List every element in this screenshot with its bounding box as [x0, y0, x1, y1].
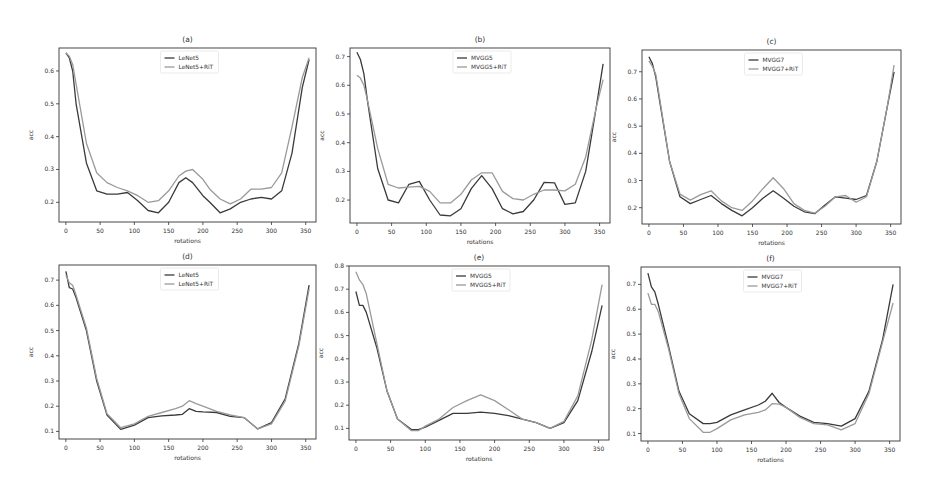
y-axis-label: acc: [27, 130, 34, 140]
legend-label: MVGG7+RiT: [763, 66, 799, 72]
x-tick-label: 50: [96, 227, 104, 234]
chart-svg: (e)0501001502002503003500.10.20.30.40.50…: [310, 240, 630, 489]
chart-title: (f): [766, 254, 775, 263]
x-tick-label: 250: [525, 228, 537, 235]
series-line-base: [66, 271, 309, 429]
legend-label: MVGG5: [470, 273, 492, 279]
x-axis-label: rotations: [466, 455, 493, 462]
x-axis-label: rotations: [757, 456, 784, 463]
y-tick-label: 0.3: [335, 167, 345, 174]
y-tick-label: 0.6: [626, 305, 636, 312]
x-tick-label: 50: [679, 446, 687, 453]
y-tick-label: 0.4: [44, 133, 54, 140]
x-tick-label: 300: [558, 445, 570, 452]
legend: MVGG5MVGG5+RiT: [453, 51, 511, 73]
x-tick-label: 300: [849, 446, 861, 453]
panel-d: (d)0501001502002503003500.10.20.30.40.50…: [0, 240, 320, 489]
legend: MVGG5MVGG5+RiT: [452, 269, 510, 291]
legend-label: LeNet5: [179, 55, 200, 61]
y-tick-label: 0.2: [335, 196, 345, 203]
legend: MVGG7MVGG7+RiT: [745, 53, 803, 75]
legend-label: MVGG7: [763, 57, 785, 63]
legend-label: MVGG5: [471, 55, 493, 61]
chart-svg: (a)0501001502002503003500.20.30.40.50.6r…: [0, 0, 320, 245]
legend-label: LeNet5+RiT: [179, 64, 214, 70]
y-tick-label: 0.6: [335, 81, 345, 88]
x-tick-label: 150: [163, 444, 175, 451]
x-tick-label: 300: [850, 229, 862, 236]
legend-label: MVGG7+RiT: [762, 283, 798, 289]
y-tick-label: 0.5: [627, 122, 637, 129]
y-tick-label: 0.6: [44, 301, 54, 308]
y-tick-label: 0.1: [334, 424, 344, 431]
y-tick-label: 0.7: [626, 280, 636, 287]
x-tick-label: 350: [593, 445, 605, 452]
y-tick-label: 0.2: [626, 405, 636, 412]
legend-label: LeNet5+RiT: [179, 281, 214, 287]
y-tick-label: 0.3: [334, 378, 344, 385]
x-tick-label: 100: [421, 228, 433, 235]
y-tick-label: 0.7: [44, 276, 54, 283]
x-tick-label: 50: [680, 229, 688, 236]
y-tick-label: 0.2: [334, 401, 344, 408]
legend-label: LeNet5: [179, 272, 200, 278]
chart-svg: (f)0501001502002503003500.10.20.30.40.50…: [610, 240, 940, 489]
x-tick-label: 350: [594, 228, 606, 235]
plot-frame: [350, 48, 610, 223]
y-tick-label: 0.6: [334, 308, 344, 315]
y-tick-label: 0.6: [44, 67, 54, 74]
x-tick-label: 300: [559, 228, 571, 235]
x-tick-label: 100: [420, 445, 432, 452]
series-line-base: [649, 57, 894, 216]
x-tick-label: 250: [524, 445, 536, 452]
series-line-rit: [66, 275, 309, 429]
y-tick-label: 0.4: [335, 139, 345, 146]
series-line-base: [648, 273, 893, 426]
series-line-rit: [356, 272, 602, 431]
legend: MVGG7MVGG7+RiT: [744, 270, 802, 292]
x-tick-label: 300: [266, 227, 278, 234]
chart-svg: (c)0501001502002503003500.20.30.40.50.60…: [610, 0, 940, 245]
plot-frame: [641, 267, 900, 441]
panel-e: (e)0501001502002503003500.10.20.30.40.50…: [310, 240, 630, 489]
series-line-rit: [649, 61, 894, 213]
x-tick-label: 50: [387, 445, 395, 452]
y-axis-label: acc: [610, 349, 616, 359]
legend-label: MVGG5+RiT: [470, 282, 506, 288]
x-tick-label: 350: [885, 229, 897, 236]
y-tick-label: 0.2: [627, 204, 637, 211]
x-tick-label: 250: [231, 227, 243, 234]
legend: LeNet5LeNet5+RiT: [161, 51, 219, 73]
x-tick-label: 200: [197, 444, 209, 451]
x-tick-label: 200: [490, 228, 502, 235]
series-line-base: [66, 53, 309, 213]
x-tick-label: 250: [815, 446, 827, 453]
x-tick-label: 150: [454, 445, 466, 452]
y-tick-label: 0.7: [627, 68, 637, 75]
legend-label: MVGG7: [762, 274, 784, 280]
y-axis-label: acc: [27, 347, 34, 357]
y-tick-label: 0.5: [44, 100, 54, 107]
panel-b: (b)0501001502002503003500.20.30.40.50.60…: [310, 0, 630, 245]
y-tick-label: 0.3: [44, 377, 54, 384]
x-tick-label: 250: [816, 229, 828, 236]
x-tick-label: 300: [266, 444, 278, 451]
x-tick-label: 150: [163, 227, 175, 234]
y-axis-label: acc: [318, 130, 325, 140]
y-tick-label: 0.1: [626, 430, 636, 437]
y-axis-label: acc: [610, 132, 617, 142]
x-tick-label: 50: [388, 228, 396, 235]
chart-title: (b): [475, 35, 486, 44]
series-line-rit: [648, 293, 893, 432]
series-line-base: [356, 292, 602, 430]
x-tick-label: 0: [646, 446, 650, 453]
y-tick-label: 0.3: [44, 165, 54, 172]
y-tick-label: 0.8: [334, 262, 344, 269]
chart-title: (e): [474, 253, 485, 262]
series-line-rit: [66, 53, 309, 204]
x-tick-label: 0: [64, 227, 68, 234]
x-tick-label: 150: [455, 228, 467, 235]
y-tick-label: 0.5: [626, 330, 636, 337]
plot-frame: [59, 48, 316, 222]
series-line-rit: [357, 75, 603, 203]
